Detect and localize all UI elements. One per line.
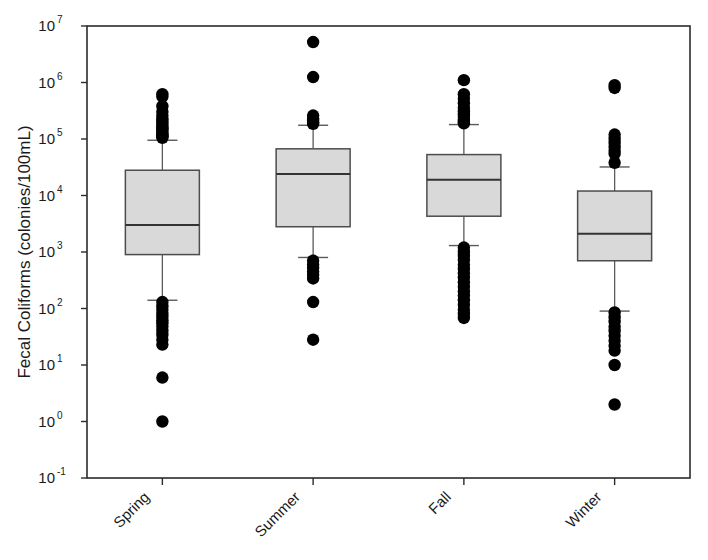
outlier-point-low (458, 312, 470, 324)
outlier-point-high (458, 117, 470, 129)
outlier-point-low (608, 398, 620, 410)
outlier-point-low (156, 371, 168, 383)
y-tick-exponent: 6 (57, 71, 63, 82)
outlier-point-low (307, 272, 319, 284)
outlier-point-high (307, 118, 319, 130)
y-tick-exponent: 5 (57, 127, 63, 138)
boxplot-chart: 10-1100101102103104105106107 Fecal Colif… (0, 0, 708, 560)
y-axis-label: Fecal Coliforms (colonies/100mL) (15, 125, 34, 378)
y-tick-label: 10 (38, 356, 55, 373)
outlier-point-high (307, 71, 319, 83)
outlier-point-high (608, 157, 620, 169)
x-tick-label-winter: Winter (562, 488, 605, 531)
x-tick-label-summer: Summer (251, 488, 303, 540)
y-tick-label: 10 (38, 243, 55, 260)
outlier-point-low (608, 344, 620, 356)
y-tick-label: 10 (38, 469, 55, 486)
box-iqr (125, 170, 199, 254)
y-tick-label: 10 (38, 413, 55, 430)
outlier-point-high (156, 132, 168, 144)
x-axis-ticks: SpringSummerFallWinter (110, 478, 615, 540)
y-axis-ticks: 10-1100101102103104105106107 (38, 14, 87, 486)
y-tick-label: 10 (38, 17, 55, 34)
outlier-point-low (608, 359, 620, 371)
x-tick-label-fall: Fall (425, 488, 454, 517)
outlier-point-high (458, 74, 470, 86)
y-tick-exponent: -1 (57, 466, 66, 477)
outlier-point-low (156, 338, 168, 350)
outlier-point-low (156, 415, 168, 427)
x-tick-label-spring: Spring (110, 488, 153, 531)
y-tick-label: 10 (38, 130, 55, 147)
y-tick-exponent: 3 (57, 240, 63, 251)
box-iqr (276, 149, 350, 227)
y-tick-label: 10 (38, 187, 55, 204)
y-tick-exponent: 2 (57, 297, 63, 308)
y-tick-label: 10 (38, 74, 55, 91)
chart-figure: 10-1100101102103104105106107 Fecal Colif… (0, 0, 708, 560)
y-tick-label: 10 (38, 300, 55, 317)
box-iqr (427, 155, 501, 217)
y-tick-exponent: 0 (57, 410, 63, 421)
outlier-point-high (608, 82, 620, 94)
y-tick-exponent: 4 (57, 184, 63, 195)
y-tick-exponent: 1 (57, 353, 63, 364)
outlier-point-low (307, 296, 319, 308)
y-tick-exponent: 7 (57, 14, 63, 25)
box-iqr (578, 191, 652, 261)
outlier-point-low (307, 334, 319, 346)
outlier-point-high (307, 36, 319, 48)
